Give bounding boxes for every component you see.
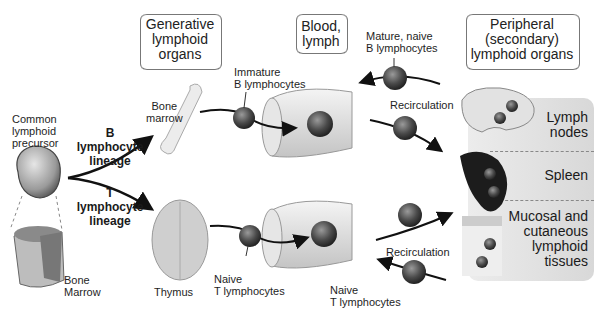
label-bone-marrow-section: Bone Marrow xyxy=(64,274,101,298)
label-recirculation-t: Recirculation xyxy=(386,246,450,258)
naive-t-cell-right xyxy=(402,260,426,284)
header-peripheral: Peripheral (secondary) lymphoid organs xyxy=(466,17,578,62)
t-cell-in-vessel xyxy=(311,221,337,247)
blood-vessel-bottom xyxy=(262,201,352,268)
blood-vessel-top xyxy=(262,89,352,157)
b-cell-in-vessel xyxy=(307,111,333,137)
immature-b-cell xyxy=(233,107,255,129)
label-naive-t-lymphocytes-left: Naive T lymphocytes xyxy=(214,273,285,297)
label-spleen: Spleen xyxy=(500,168,588,183)
header-blood-lymph: Blood, lymph xyxy=(296,19,346,49)
common-lymphoid-precursor-cell xyxy=(17,146,60,198)
label-bone-marrow: Bone marrow xyxy=(146,100,183,124)
label-mature-naive-b-lymphocytes: Mature, naive B lymphocytes xyxy=(366,30,438,54)
label-common-lymphoid-precursor: Common lymphoid precursor xyxy=(12,113,58,149)
recirculating-t-cell xyxy=(398,203,422,227)
naive-t-cell-left xyxy=(239,225,261,247)
label-immature-b-lymphocytes: Immature B lymphocytes xyxy=(234,66,306,90)
mature-b-cell xyxy=(383,66,407,90)
header-generative: Generative lymphoid organs xyxy=(140,17,220,62)
label-mucosal-cutaneous-lymphoid-tissues: Mucosal and cutaneous lymphoid tissues xyxy=(496,209,588,269)
thymus-icon xyxy=(152,200,208,280)
label-naive-t-lymphocytes-right: Naive T lymphocytes xyxy=(330,284,401,308)
label-b-lymphocyte-lineage: B lymphocyte lineage xyxy=(70,126,150,168)
label-t-lymphocyte-lineage: T lymphocyte lineage xyxy=(70,186,150,228)
bone-marrow-section-icon xyxy=(14,226,64,287)
label-thymus: Thymus xyxy=(154,286,193,298)
label-lymph-nodes: Lymph nodes xyxy=(500,110,588,140)
recirculating-b-cell xyxy=(393,116,417,140)
label-recirculation-b: Recirculation xyxy=(390,99,454,111)
